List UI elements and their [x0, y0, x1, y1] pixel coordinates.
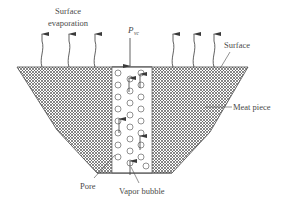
- label-surface-evaporation-line2: evaporation: [48, 18, 89, 28]
- label-vapor-bubble: Vapor bubble: [119, 186, 165, 196]
- evaporation-arrows: [41, 34, 215, 67]
- surface-leader-line: [221, 52, 230, 67]
- label-meat-piece: Meat piece: [233, 102, 271, 112]
- label-surface-evaporation-line1: Surface: [55, 6, 81, 16]
- label-pore: Pore: [80, 181, 96, 191]
- label-pressure-subscript: vc: [134, 30, 139, 36]
- label-surface: Surface: [224, 40, 250, 50]
- meat-pore-evaporation-diagram: Surface evaporation P vc Surface Meat pi…: [0, 0, 297, 209]
- label-pressure-symbol: P: [127, 25, 134, 35]
